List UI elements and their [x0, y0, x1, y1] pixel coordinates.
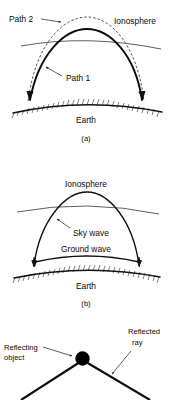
- path2-leader-line: [41, 19, 61, 22]
- figure-root: Path 2 Ionosphere Path 1 Earth (a): [0, 0, 173, 400]
- ground-wave-curve: [35, 256, 139, 262]
- panel-b: Ionosphere Sky wave Ground wave Earth (b…: [13, 179, 160, 308]
- label-reflected-ray-line2: ray: [132, 338, 143, 347]
- label-ionosphere-a: Ionosphere: [114, 16, 156, 26]
- earth-surface-a: [13, 105, 162, 113]
- path1-leader-line: [46, 67, 62, 76]
- path1-curve: [30, 29, 142, 100]
- path1-right-arrow: [142, 92, 143, 99]
- label-earth-a: Earth: [76, 115, 96, 125]
- label-ionosphere-b: Ionosphere: [65, 179, 107, 189]
- path1-left-arrow: [29, 92, 30, 99]
- panel-c: Reflecting object Reflected ray: [4, 327, 160, 400]
- reflecting-object-leader-line: [43, 347, 72, 356]
- label-earth-b: Earth: [76, 281, 96, 291]
- label-reflected-ray-line1: Reflected: [128, 327, 160, 336]
- reflected-ray-leader-line: [112, 351, 131, 374]
- sky-wave-leader-line: [57, 219, 70, 228]
- label-path1: Path 1: [66, 73, 91, 83]
- ionosphere-layer-arc-a: [21, 41, 161, 49]
- ionosphere-layer-arc-b: [17, 206, 159, 214]
- label-reflecting-object-line2: object: [4, 353, 25, 362]
- reflected-ray-line: [86, 362, 150, 400]
- caption-b: (b): [81, 299, 91, 308]
- label-sky-wave: Sky wave: [73, 228, 109, 238]
- panel-a: Path 2 Ionosphere Path 1 Earth (a): [9, 14, 162, 143]
- propagation-figure: Path 2 Ionosphere Path 1 Earth (a): [0, 0, 173, 400]
- label-reflecting-object-line1: Reflecting: [4, 343, 38, 352]
- incident-ray-line: [21, 362, 80, 400]
- label-ground-wave: Ground wave: [61, 244, 111, 254]
- reflecting-object-dot: [75, 351, 89, 365]
- label-path2: Path 2: [9, 14, 34, 24]
- caption-a: (a): [81, 134, 91, 143]
